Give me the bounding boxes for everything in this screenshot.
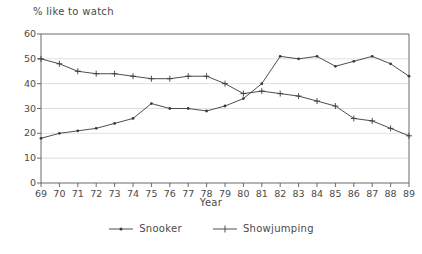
y-tick-marks xyxy=(37,34,41,183)
legend-label-showjumping: Showjumping xyxy=(243,223,314,234)
series-showjumping xyxy=(38,56,412,139)
chart-container: % like to watch 0102030405060 6970717273… xyxy=(0,0,422,254)
y-tick-label: 40 xyxy=(12,78,36,89)
y-tick-label: 20 xyxy=(12,127,36,138)
x-tick-marks xyxy=(41,183,409,187)
legend-item-snooker[interactable]: Snooker xyxy=(108,223,182,234)
legend-item-showjumping[interactable]: Showjumping xyxy=(212,223,314,234)
line-chart-plot xyxy=(0,0,422,254)
y-tick-label: 60 xyxy=(12,28,36,39)
legend-label-snooker: Snooker xyxy=(139,223,182,234)
legend-marker-showjumping-icon xyxy=(212,224,238,234)
data-series-layer xyxy=(38,55,412,140)
series-snooker xyxy=(40,55,411,140)
y-tick-label: 10 xyxy=(12,152,36,163)
y-tick-label: 30 xyxy=(12,103,36,114)
chart-legend: Snooker Showjumping xyxy=(0,223,422,234)
y-tick-label: 0 xyxy=(12,177,36,188)
x-axis-title: Year xyxy=(0,197,422,208)
legend-marker-snooker-icon xyxy=(108,224,134,234)
y-tick-label: 50 xyxy=(12,53,36,64)
